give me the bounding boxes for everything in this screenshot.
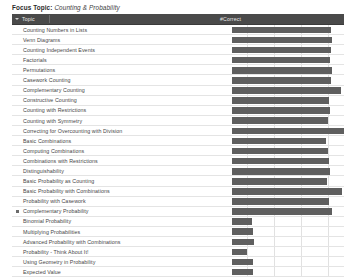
focus-topic-value: Counting & Probability: [54, 4, 119, 11]
bar-cell: [220, 75, 344, 84]
bar-cell: [220, 166, 344, 175]
table-row[interactable]: Complementary Counting: [12, 86, 344, 96]
bar: [232, 57, 330, 64]
bar-cell: [220, 55, 344, 64]
table-row[interactable]: Counting Independent Events: [12, 45, 344, 55]
bar: [232, 168, 330, 175]
row-label: Binomial Probability: [23, 218, 71, 224]
bar: [232, 228, 253, 235]
row-label: Combinations with Restrictions: [23, 158, 98, 164]
row-label: Expected Value: [23, 269, 61, 275]
bar-cell: [220, 45, 344, 54]
table-row[interactable]: Expected Value: [12, 267, 344, 277]
bar: [232, 148, 328, 155]
topics-table: Topic #Correct Counting Numbers in Lists…: [12, 14, 344, 277]
bar-cell: [220, 227, 344, 236]
table-row[interactable]: Probability with Casework: [12, 197, 344, 207]
row-label: Probability with Casework: [23, 198, 86, 204]
bar: [232, 87, 341, 94]
bar-cell: [220, 116, 344, 125]
bar-cell: [220, 156, 344, 165]
table-row[interactable]: Factorials: [12, 55, 344, 65]
row-label: Casework Counting: [23, 77, 71, 83]
table-row[interactable]: Casework Counting: [12, 75, 344, 85]
bar-cell: [220, 197, 344, 206]
row-label: Counting with Restrictions: [23, 107, 86, 113]
bar: [232, 249, 247, 256]
bar-cell: [220, 217, 344, 226]
row-label: Correcting for Overcounting with Divisio…: [23, 128, 122, 134]
table-row[interactable]: Correcting for Overcounting with Divisio…: [12, 126, 344, 136]
bar: [232, 198, 329, 205]
table-row[interactable]: Advanced Probability with Combinations: [12, 237, 344, 247]
table-row[interactable]: Basic Probability as Counting: [12, 176, 344, 186]
table-row[interactable]: Complementary Probability: [12, 207, 344, 217]
bar: [232, 117, 328, 124]
table-row[interactable]: Computing Combinations: [12, 146, 344, 156]
bar: [232, 37, 332, 44]
bar-cell: [220, 207, 344, 216]
table-row[interactable]: Distinguishability: [12, 166, 344, 176]
table-row[interactable]: Constructive Counting: [12, 96, 344, 106]
row-label: Counting with Symmetry: [23, 118, 82, 124]
row-label: Counting Numbers in Lists: [23, 27, 87, 33]
table-row[interactable]: Permutations: [12, 65, 344, 75]
bar: [232, 269, 253, 276]
table-row[interactable]: Combinations with Restrictions: [12, 156, 344, 166]
table-row[interactable]: Using Geometry in Probability: [12, 257, 344, 267]
table-row[interactable]: Basic Probability with Combinations: [12, 187, 344, 197]
square-bullet-icon: [16, 210, 19, 213]
row-label: Probability - Think About It!: [23, 249, 89, 255]
row-label: Computing Combinations: [23, 148, 84, 154]
bar-cell: [220, 146, 344, 155]
bar: [232, 178, 327, 185]
bar: [232, 188, 342, 195]
table-row[interactable]: Basic Combinations: [12, 136, 344, 146]
row-label: Multiplying Probabilities: [23, 229, 80, 235]
table-row[interactable]: Counting Numbers in Lists: [12, 25, 344, 35]
bar: [232, 67, 332, 74]
row-label: Counting Independent Events: [23, 47, 95, 53]
bar: [232, 208, 332, 215]
bar-cell: [220, 96, 344, 105]
table-row[interactable]: Venn Diagrams: [12, 35, 344, 45]
row-label: Complementary Probability: [23, 208, 89, 214]
bar-cell: [220, 25, 344, 34]
column-header-topic[interactable]: Topic: [22, 16, 35, 22]
page-title: Focus Topic: Counting & Probability: [12, 3, 120, 13]
chevron-down-icon[interactable]: [15, 18, 19, 20]
table-row[interactable]: Probability - Think About It!: [12, 247, 344, 257]
bar-cell: [220, 267, 344, 276]
bar: [232, 27, 331, 34]
row-label: Venn Diagrams: [23, 37, 60, 43]
bar-cell: [220, 86, 344, 95]
bar-cell: [220, 237, 344, 246]
bar: [232, 128, 344, 135]
row-label: Complementary Counting: [23, 87, 85, 93]
bar: [232, 47, 331, 54]
table-row[interactable]: Multiplying Probabilities: [12, 227, 344, 237]
bar: [232, 239, 254, 246]
table-row[interactable]: Counting with Symmetry: [12, 116, 344, 126]
bar-cell: [220, 65, 344, 74]
bar: [232, 107, 330, 114]
row-label: Advanced Probability with Combinations: [23, 239, 121, 245]
table-body: Counting Numbers in ListsVenn DiagramsCo…: [12, 25, 344, 277]
bar-cell: [220, 176, 344, 185]
bar: [232, 259, 253, 266]
bar-cell: [220, 247, 344, 256]
focus-topic-label: Focus Topic: [12, 4, 50, 11]
bar-cell: [220, 136, 344, 145]
row-label: Basic Combinations: [23, 138, 71, 144]
row-label: Basic Probability as Counting: [23, 178, 94, 184]
bar: [232, 138, 326, 145]
row-label: Using Geometry in Probability: [23, 259, 95, 265]
row-label: Distinguishability: [23, 168, 64, 174]
column-header-correct[interactable]: #Correct: [220, 16, 241, 22]
bar-cell: [220, 35, 344, 44]
row-label: Constructive Counting: [23, 97, 77, 103]
table-row[interactable]: Counting with Restrictions: [12, 106, 344, 116]
bar: [232, 97, 329, 104]
table-row[interactable]: Binomial Probability: [12, 217, 344, 227]
